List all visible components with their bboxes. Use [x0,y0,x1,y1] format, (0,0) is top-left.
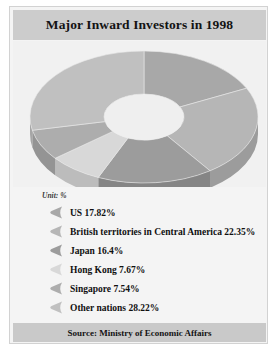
legend-item-label: Other nations 28.22% [70,303,159,313]
legend-swatch-icon [48,206,63,219]
chart-plot-area [13,41,266,187]
legend-item: Other nations 28.22% [48,298,266,317]
legend-swatch-icon [48,263,63,276]
chart-title-band: Major Inward Investors in 1998 [13,10,266,40]
legend-item: Singapore 7.54% [48,279,266,298]
chart-source-band: Source: Ministry of Economic Affairs [13,323,266,342]
legend-item: British territories in Central America 2… [48,222,266,241]
legend-item-label: Singapore 7.54% [70,284,140,294]
legend-item-label: Hong Kong 7.67% [70,265,145,275]
page-title: Major Inward Investors in 1998 [46,17,233,33]
donut-chart [13,41,266,187]
unit-label: Unit: % [42,191,66,200]
legend-swatch-icon [48,225,63,238]
legend-swatch-icon [48,244,63,257]
legend-item-label: British territories in Central America 2… [70,227,255,237]
legend-swatch-icon [48,282,63,295]
legend-swatch-icon [48,301,63,314]
legend-item: US 17.82% [48,203,266,222]
legend-item-label: US 17.82% [70,208,115,218]
chart-card: Major Inward Investors in 1998 Unit: % U… [9,6,268,344]
legend-item: Japan 16.4% [48,241,266,260]
chart-legend: US 17.82%British territories in Central … [48,203,266,317]
legend-item-label: Japan 16.4% [70,246,123,256]
source-text: Source: Ministry of Economic Affairs [68,328,212,338]
legend-item: Hong Kong 7.67% [48,260,266,279]
